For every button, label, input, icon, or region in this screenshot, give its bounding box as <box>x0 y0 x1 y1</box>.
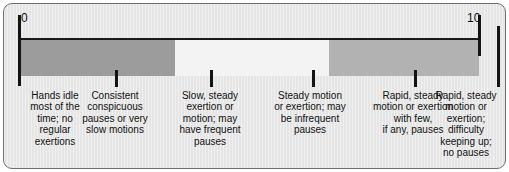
anchor-labels: Hands idle most of the time; no regular … <box>4 90 507 170</box>
anchor-label-2: Consistent conspicuous pauses or very sl… <box>67 90 163 136</box>
hand-activity-level-figure: 0 10 Hands idle most of the time; no reg… <box>0 0 509 172</box>
scale-tick-2 <box>115 70 118 87</box>
anchor-label-4: Slow, steady exertion or motion; may hav… <box>162 90 258 147</box>
figure-panel: 0 10 Hands idle most of the time; no reg… <box>3 3 506 169</box>
anchor-label-6: Steady motion or exertion; may be infreq… <box>260 90 360 136</box>
bar-segment-low <box>18 39 175 76</box>
bar-segment-mid <box>175 39 329 76</box>
scale-tick-8 <box>414 70 417 87</box>
bar-segment-high <box>329 39 479 76</box>
bar-top-rule <box>18 38 480 40</box>
scale-bar <box>18 39 479 76</box>
scale-tick-end-rule <box>497 26 500 87</box>
scale-tick-0 <box>18 15 21 86</box>
scale-tick-4 <box>210 70 213 87</box>
scale-tick-6 <box>312 70 315 87</box>
anchor-label-10: Rapid, steady motion or exertion; diffic… <box>424 90 508 158</box>
scale-end-value: 10 <box>467 12 480 24</box>
scale-start-value: 0 <box>21 12 28 24</box>
